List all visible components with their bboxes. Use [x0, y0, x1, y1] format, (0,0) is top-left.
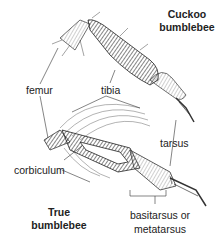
true-bumblebee-title: True bumblebee — [28, 206, 90, 232]
cuckoo-bumblebee-title: Cuckoo bumblebee — [152, 8, 222, 34]
cuckoo-title-line2: bumblebee — [152, 21, 222, 34]
label-femur: femur — [26, 84, 53, 96]
label-corbiculum: corbiculum — [14, 164, 65, 176]
label-tarsus: tarsus — [160, 137, 189, 149]
cuckoo-title-line1: Cuckoo — [152, 8, 222, 21]
true-leg — [44, 104, 206, 206]
label-basitarsus-line1: basitarsus or — [127, 209, 193, 221]
label-basitarsus-line2: metatarsus — [127, 223, 193, 235]
label-basitarsus: basitarsus or metatarsus — [127, 209, 193, 235]
true-title-line1: True — [28, 206, 90, 219]
true-title-line2: bumblebee — [28, 219, 90, 232]
bumblebee-leg-diagram: Cuckoo bumblebee femur tibia tarsus corb… — [0, 0, 223, 249]
label-tibia: tibia — [101, 84, 120, 96]
